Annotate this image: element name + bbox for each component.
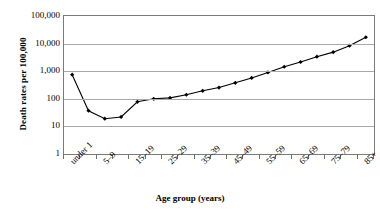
- y-tick-label: 100,000: [14, 10, 60, 20]
- data-point-marker: [298, 60, 302, 64]
- x-axis-tick-labels: under 15–915–1925–2935–3945–4955–5965–69…: [0, 155, 380, 195]
- data-point-marker: [331, 50, 335, 54]
- series-polyline: [72, 37, 366, 118]
- data-point-marker: [217, 85, 221, 89]
- data-point-marker: [184, 93, 188, 97]
- gridline: [64, 44, 374, 45]
- data-point-marker: [250, 76, 254, 80]
- data-point-marker: [70, 73, 74, 77]
- gridline: [64, 126, 374, 127]
- gridline: [64, 99, 374, 100]
- data-point-marker: [201, 89, 205, 93]
- data-series-line: [64, 16, 374, 154]
- y-tick-label: 10: [14, 120, 60, 130]
- death-rates-line-chart: Death rates per 100,000 100,00010,0001,0…: [0, 0, 380, 211]
- y-tick-label: 10,000: [14, 38, 60, 48]
- plot-area: [63, 15, 375, 155]
- data-point-marker: [364, 35, 368, 39]
- y-tick-label: 100: [14, 93, 60, 103]
- y-tick-label: 1,000: [14, 65, 60, 75]
- data-point-marker: [282, 65, 286, 69]
- gridline: [64, 71, 374, 72]
- data-point-marker: [315, 55, 319, 59]
- data-point-marker: [233, 81, 237, 85]
- data-point-marker: [86, 109, 90, 113]
- data-point-marker: [103, 117, 107, 121]
- x-axis-title: Age group (years): [0, 193, 380, 203]
